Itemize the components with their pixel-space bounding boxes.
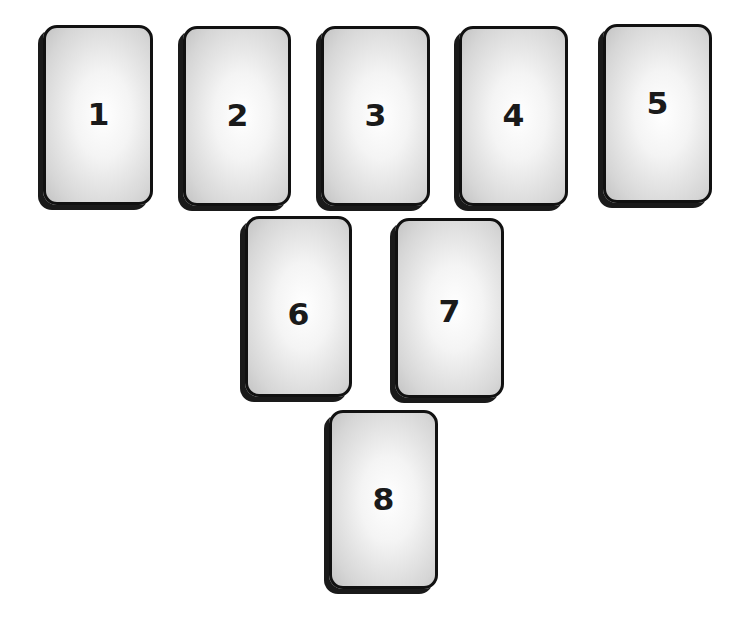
card-position-2: 2	[183, 26, 291, 206]
card-number-label: 8	[373, 485, 395, 515]
card-number-label: 5	[647, 89, 669, 119]
card-position-4: 4	[459, 26, 568, 206]
card-number-label: 1	[87, 100, 109, 130]
card-number-label: 4	[503, 101, 525, 131]
card-number-label: 6	[288, 300, 310, 330]
card-position-8: 8	[329, 410, 438, 589]
card-number-label: 2	[226, 101, 248, 131]
card-position-6: 6	[245, 216, 352, 397]
card-position-7: 7	[395, 218, 504, 398]
card-position-3: 3	[321, 26, 430, 206]
card-position-5: 5	[603, 24, 712, 203]
card-position-1: 1	[43, 25, 153, 205]
card-number-label: 7	[439, 297, 461, 327]
card-number-label: 3	[365, 101, 387, 131]
